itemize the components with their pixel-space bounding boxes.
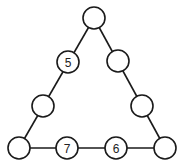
puzzle-node-left-upper: 5: [57, 51, 79, 73]
puzzle-nodes: 576: [8, 7, 176, 159]
right-side-edge: [94, 18, 165, 148]
node-label: 6: [113, 142, 120, 156]
triangle-edges: [19, 18, 165, 148]
diagram-svg: 576: [0, 0, 185, 166]
puzzle-node-bottom-left: [8, 137, 30, 159]
node-circle: [83, 7, 105, 29]
node-circle: [154, 137, 176, 159]
puzzle-node-bottom-right: [154, 137, 176, 159]
triangle-puzzle-diagram: 576: [0, 0, 185, 166]
node-label: 5: [65, 56, 72, 70]
node-circle: [131, 95, 153, 117]
puzzle-node-right-upper: [107, 50, 129, 72]
node-circle: [107, 50, 129, 72]
node-circle: [8, 137, 30, 159]
node-label: 7: [64, 142, 71, 156]
puzzle-node-bottom-mid-left: 7: [56, 137, 78, 159]
node-circle: [32, 95, 54, 117]
puzzle-node-bottom-mid-right: 6: [105, 137, 127, 159]
puzzle-node-left-lower: [32, 95, 54, 117]
puzzle-node-right-lower: [131, 95, 153, 117]
left-side-edge: [19, 18, 94, 148]
puzzle-node-top: [83, 7, 105, 29]
